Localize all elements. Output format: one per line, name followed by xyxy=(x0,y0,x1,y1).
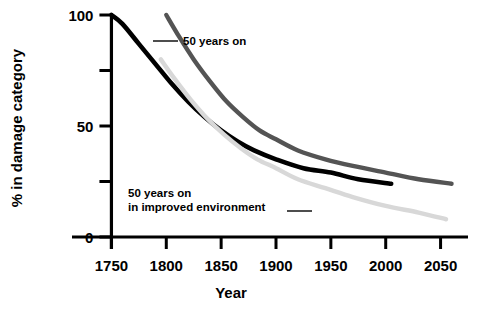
chart-figure: 1750180018501900195020002050 050100 Year… xyxy=(0,0,479,314)
x-axis-tick-labels: 1750180018501900195020002050 xyxy=(95,257,458,274)
y-axis-title: % in damage category xyxy=(8,48,25,207)
x-axis-title: Year xyxy=(215,284,247,301)
x-axis-tick-label: 2000 xyxy=(369,257,402,274)
x-axis-tick-label: 1900 xyxy=(259,257,292,274)
annotation-line: 50 years on xyxy=(183,35,246,47)
axis-lines-and-ticks xyxy=(72,13,468,249)
y-axis-tick-label: 100 xyxy=(68,7,93,24)
annotation-label: 50 years on xyxy=(183,35,246,47)
y-axis-tick-label: 0 xyxy=(85,229,93,246)
annotation-line: 50 years on xyxy=(128,187,191,199)
x-axis-tick-label: 2050 xyxy=(424,257,457,274)
x-axis-tick-label: 1850 xyxy=(204,257,237,274)
x-axis-tick-label: 1750 xyxy=(95,257,128,274)
y-axis-tick-labels: 050100 xyxy=(68,7,93,246)
annotation-line: in improved environment xyxy=(128,201,266,213)
annotation-label: 50 years onin improved environment xyxy=(128,187,266,213)
series-line-50-years-on-improved xyxy=(161,59,446,219)
x-axis-tick-label: 1800 xyxy=(150,257,183,274)
x-axis-tick-label: 1950 xyxy=(314,257,347,274)
y-axis-tick-label: 50 xyxy=(77,118,94,135)
line-chart-canvas: 1750180018501900195020002050 050100 Year… xyxy=(0,0,479,314)
